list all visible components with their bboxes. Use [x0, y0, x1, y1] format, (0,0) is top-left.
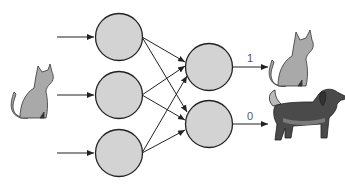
input-arrows — [57, 37, 94, 153]
output-node-1 — [186, 44, 233, 91]
cat-icon — [269, 30, 313, 86]
input-node-2 — [96, 72, 143, 119]
output-label-1: 1 — [247, 52, 253, 64]
output-node-2 — [186, 101, 233, 148]
input-layer — [96, 14, 143, 177]
output-label-0: 0 — [247, 110, 253, 122]
neural-network-diagram: 1 0 — [0, 0, 345, 188]
input-node-1 — [96, 14, 143, 61]
cat-icon — [11, 64, 53, 118]
output-layer — [186, 44, 233, 148]
dog-icon — [269, 89, 345, 140]
input-node-3 — [96, 130, 143, 177]
connection-edges — [142, 37, 187, 153]
